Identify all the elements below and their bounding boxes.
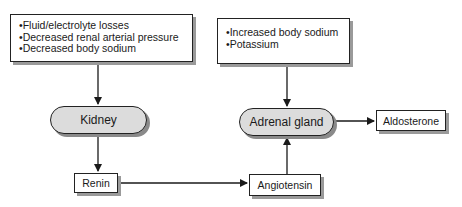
aldosterone-node: Aldosterone: [376, 110, 446, 131]
left-input-item: •Decreased body sodium: [19, 43, 192, 55]
left-input-item: •Fluid/electrolyte losses: [19, 20, 192, 32]
adrenal-gland-node: Adrenal gland: [239, 108, 334, 136]
renin-node: Renin: [74, 173, 118, 193]
right-input-item: •Potassium: [226, 39, 349, 51]
right-input-item: •Increased body sodium: [226, 27, 349, 39]
left-input-box: •Fluid/electrolyte losses •Decreased ren…: [10, 14, 193, 62]
right-input-box: •Increased body sodium •Potassium: [217, 18, 350, 64]
kidney-node: Kidney: [50, 106, 147, 134]
angiotensin-node: Angiotensin: [249, 174, 321, 196]
